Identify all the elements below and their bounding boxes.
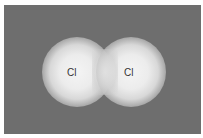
- atom-label-left: Cl: [67, 68, 76, 78]
- bond-overlap-region: [92, 49, 118, 95]
- diagram-panel: Cl Cl: [4, 5, 201, 134]
- atom-label-right: Cl: [124, 68, 133, 78]
